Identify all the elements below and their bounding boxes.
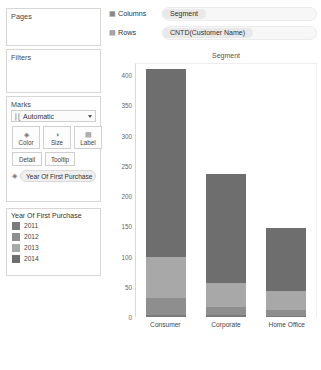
marks-buttons-row-2: Detail Tooltip (12, 152, 75, 166)
legend-item[interactable]: 2011 (7, 220, 100, 231)
color-button[interactable]: ◈ Color (12, 126, 40, 149)
marks-color-pill[interactable]: Year Of First Purchase (20, 170, 96, 182)
abc-label-icon: ▤ (85, 130, 92, 139)
y-tick-label: 150 (121, 223, 135, 230)
legend-item[interactable]: 2014 (7, 253, 100, 264)
bar-segment[interactable] (146, 298, 186, 315)
legend-swatch (12, 222, 20, 230)
color-palette-icon: ◈ (24, 130, 29, 139)
label-button[interactable]: ▤ Label (74, 126, 102, 149)
y-tick-label: 200 (121, 193, 135, 200)
detail-button-label: Detail (19, 156, 35, 163)
bar-segment[interactable] (206, 174, 246, 283)
tableau-worksheet: Pages Filters Marks ⎢⎣ Automatic ◈ Color… (0, 0, 321, 370)
y-tick-label: 100 (121, 253, 135, 260)
rows-shelf-label: Rows (118, 28, 162, 37)
bar-segment[interactable] (146, 69, 186, 256)
marks-card-title: Marks (7, 97, 100, 109)
legend-item[interactable]: 2012 (7, 231, 100, 242)
columns-shelf[interactable]: ▦ Columns Segment (107, 6, 317, 21)
rows-shelf-track[interactable]: CNTD(Customer Name) (162, 26, 317, 40)
legend-swatch (12, 255, 20, 263)
y-tick-label: 50 (125, 283, 135, 290)
legend-item-label: 2012 (24, 233, 39, 240)
bar-segment[interactable] (206, 315, 246, 317)
bar-segment[interactable] (146, 257, 186, 298)
bar-column[interactable] (266, 64, 306, 317)
y-tick-label: 400 (121, 72, 135, 79)
bar-chart-icon: ⎢⎣ (15, 113, 20, 120)
tooltip-button[interactable]: Tooltip (45, 152, 75, 166)
plot-area[interactable] (135, 63, 317, 317)
columns-shelf-track[interactable]: Segment (162, 7, 317, 21)
color-legend-card: Year Of First Purchase 2011 2012 2013 20… (6, 208, 101, 276)
rows-shelf[interactable]: ▤ Rows CNTD(Customer Name) (107, 25, 317, 40)
chevron-down-icon[interactable] (88, 115, 92, 118)
legend-item-label: 2014 (24, 255, 39, 262)
bar-segment[interactable] (146, 315, 186, 317)
bar-segment[interactable] (266, 228, 306, 292)
bars-container (136, 64, 316, 317)
bar-segment[interactable] (206, 283, 246, 308)
left-panel: Pages Filters Marks ⎢⎣ Automatic ◈ Color… (0, 0, 105, 370)
color-button-label: Color (18, 139, 33, 146)
size-circle-icon: ◑ (55, 130, 59, 139)
bar-segment[interactable] (206, 307, 246, 315)
size-button-label: Size (51, 139, 63, 146)
pages-card-title: Pages (7, 9, 100, 21)
rows-icon: ▤ (107, 29, 118, 37)
legend-item-label: 2011 (24, 222, 38, 229)
size-button[interactable]: ◑ Size (43, 126, 71, 149)
mark-type-value: Automatic (23, 113, 88, 120)
marks-buttons-row-1: ◈ Color ◑ Size ▤ Label (12, 126, 102, 149)
detail-button[interactable]: Detail (12, 152, 42, 166)
visualization-area: ▦ Columns Segment ▤ Rows CNTD(Customer N… (105, 0, 321, 370)
pages-card[interactable]: Pages (6, 8, 101, 46)
columns-field-pill[interactable]: Segment (162, 9, 206, 19)
y-tick-label: 350 (121, 102, 135, 109)
bar-segment[interactable] (266, 291, 306, 310)
legend-swatch (12, 233, 20, 241)
chart-column-header: Segment (135, 52, 317, 59)
filters-card-title: Filters (7, 50, 100, 62)
shelf-area: ▦ Columns Segment ▤ Rows CNTD(Customer N… (105, 6, 321, 48)
marks-card: Marks ⎢⎣ Automatic ◈ Color ◑ Size ▤ Labe… (6, 96, 101, 202)
legend-item-label: 2013 (24, 244, 39, 251)
y-tick-label: 250 (121, 162, 135, 169)
plot-wrapper: Distinct count of Customer Name 05010015… (135, 63, 317, 339)
columns-icon: ▦ (107, 10, 118, 18)
mark-type-dropdown[interactable]: ⎢⎣ Automatic (11, 110, 96, 122)
x-tick-label[interactable]: Home Office (268, 321, 305, 328)
bar-column[interactable] (206, 64, 246, 317)
x-tick-label[interactable]: Corporate (211, 321, 240, 328)
filters-card[interactable]: Filters (6, 49, 101, 93)
x-tick-label[interactable]: Consumer (150, 321, 180, 328)
tooltip-button-label: Tooltip (51, 156, 69, 163)
label-button-label: Label (80, 139, 95, 146)
marks-pill-row: ◈ Year Of First Purchase (12, 170, 96, 182)
rows-field-pill[interactable]: CNTD(Customer Name) (162, 28, 253, 38)
bar-segment[interactable] (266, 316, 306, 317)
y-tick-label: 300 (121, 132, 135, 139)
bar-column[interactable] (146, 64, 186, 317)
columns-shelf-label: Columns (118, 9, 162, 18)
legend-title: Year Of First Purchase (7, 209, 100, 220)
legend-item[interactable]: 2013 (7, 242, 100, 253)
y-tick-label: 0 (128, 314, 135, 321)
color-palette-icon: ◈ (12, 172, 17, 180)
legend-swatch (12, 244, 20, 252)
